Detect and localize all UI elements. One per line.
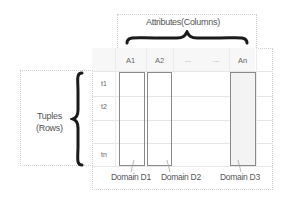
- domain-d3-label: Domain D3: [220, 172, 260, 182]
- domain-d2-label: Domain D2: [161, 172, 201, 182]
- domain-d1-label: Domain D1: [111, 172, 151, 182]
